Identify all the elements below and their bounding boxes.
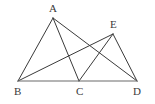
vertex-label-C: C — [76, 86, 83, 97]
geometry-figure: AEBCD — [0, 0, 155, 104]
vertex-label-A: A — [49, 3, 57, 14]
segments-group — [18, 18, 137, 81]
vertex-label-B: B — [14, 86, 21, 97]
vertex-label-E: E — [110, 19, 117, 30]
segment-BE — [18, 34, 113, 81]
segment-BA — [18, 18, 53, 81]
segment-ED — [113, 34, 137, 81]
vertex-label-D: D — [133, 86, 141, 97]
